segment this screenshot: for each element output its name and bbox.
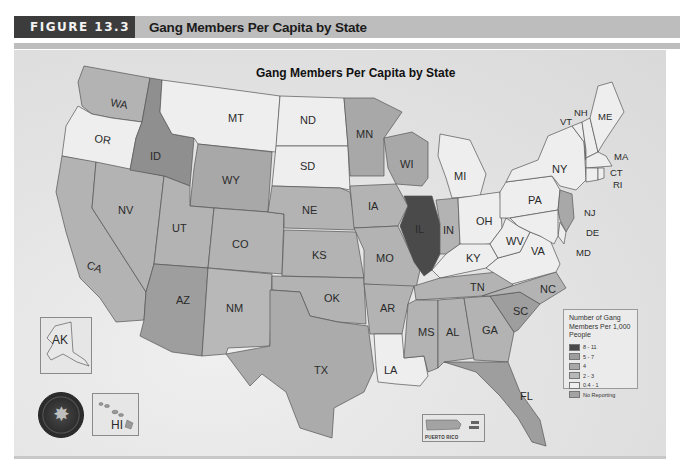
hawaii-label: HI	[111, 418, 123, 432]
label-id: ID	[150, 150, 161, 162]
legend-label: 8 - 11	[583, 344, 597, 350]
state-ri	[598, 168, 604, 180]
label-ut: UT	[172, 222, 187, 234]
legend-item: 2 - 3	[569, 371, 633, 381]
label-wy: WY	[222, 174, 240, 186]
alaska-label: AK	[52, 333, 68, 347]
label-pa: PA	[528, 194, 543, 206]
legend-swatch	[569, 382, 580, 389]
legend-swatch	[569, 363, 580, 370]
label-oh: OH	[476, 215, 493, 227]
label-nv: NV	[118, 204, 134, 216]
label-il: IL	[415, 223, 424, 235]
map-legend: Number of Gang Members Per 1,000 People …	[563, 309, 638, 389]
label-ga: GA	[482, 324, 499, 336]
legend-swatch	[569, 372, 580, 379]
hawaii-inset: HI	[92, 393, 139, 436]
legend-item: No Reporting	[569, 390, 633, 400]
label-de: DE	[586, 227, 599, 238]
state-ia	[350, 184, 408, 228]
legend-item: 5 - 7	[569, 352, 633, 362]
label-va: VA	[531, 245, 546, 257]
label-nd: ND	[300, 114, 316, 126]
label-tn: TN	[470, 281, 485, 293]
seal-star-icon: ✸	[53, 404, 70, 424]
legend-item: 0.4 - 1	[569, 381, 633, 391]
label-mi: MI	[454, 170, 466, 182]
label-sc: SC	[513, 305, 528, 317]
label-ks: KS	[312, 249, 327, 261]
label-ct: CT	[610, 167, 623, 178]
label-in: IN	[443, 224, 454, 236]
label-nm: NM	[226, 302, 243, 314]
label-ky: KY	[466, 252, 481, 264]
agency-seal: ✸	[38, 392, 84, 438]
legend-title: Number of Gang Members Per 1,000 People	[569, 314, 633, 340]
label-wi: WI	[400, 158, 413, 170]
label-ma: MA	[614, 151, 629, 162]
label-me: ME	[598, 111, 612, 122]
legend-label: 0.4 - 1	[583, 382, 599, 388]
label-mn: MN	[356, 128, 373, 140]
label-al: AL	[446, 326, 459, 338]
label-tx: TX	[314, 364, 329, 376]
label-nc: NC	[540, 283, 556, 295]
label-ia: IA	[368, 200, 379, 212]
label-mo: MO	[376, 252, 394, 264]
label-ne: NE	[302, 204, 317, 216]
label-wv: WV	[506, 235, 524, 247]
label-nh: NH	[574, 107, 588, 118]
puerto-rico-label: PUERTO RICO	[425, 435, 458, 440]
label-ri: RI	[613, 179, 623, 190]
label-sd: SD	[300, 160, 315, 172]
label-ar: AR	[380, 302, 395, 314]
puerto-rico-inset: PUERTO RICO	[422, 414, 485, 442]
state-mi	[438, 134, 486, 198]
label-az: AZ	[176, 294, 190, 306]
label-ms: MS	[418, 326, 435, 338]
label-ok: OK	[324, 292, 341, 304]
label-mt: MT	[228, 112, 244, 124]
label-or: OR	[94, 132, 112, 146]
legend-label: 4	[583, 363, 586, 369]
legend-swatch	[569, 344, 580, 351]
label-fl: FL	[520, 390, 533, 402]
label-ny: NY	[552, 163, 568, 175]
label-co: CO	[232, 238, 249, 250]
label-la: LA	[384, 364, 398, 376]
legend-item: 8 - 11	[569, 343, 633, 353]
state-az	[140, 264, 208, 356]
legend-swatch	[569, 353, 580, 360]
alaska-inset: AK	[40, 317, 92, 374]
map-title: Gang Members Per Capita by State	[256, 66, 455, 80]
label-nj: NJ	[584, 207, 596, 218]
legend-swatch	[569, 391, 580, 398]
legend-item: 4	[569, 362, 633, 372]
legend-label: No Reporting	[583, 392, 615, 398]
state-ct	[586, 168, 598, 182]
legend-label: 5 - 7	[583, 354, 594, 360]
legend-label: 2 - 3	[583, 373, 594, 379]
label-vt: VT	[560, 116, 572, 127]
label-md: MD	[576, 247, 591, 258]
